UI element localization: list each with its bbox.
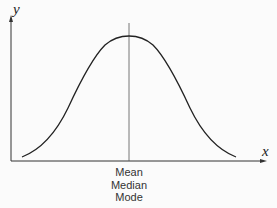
center-labels: Mean Median Mode <box>89 166 169 204</box>
mean-label: Mean <box>89 166 169 179</box>
x-axis-label: x <box>262 144 269 159</box>
mode-label: Mode <box>89 191 169 204</box>
diagram-canvas: y x Mean Median Mode <box>0 0 277 208</box>
y-axis-label: y <box>13 2 20 17</box>
median-label: Median <box>89 179 169 192</box>
x-axis-arrow-icon <box>260 159 267 163</box>
